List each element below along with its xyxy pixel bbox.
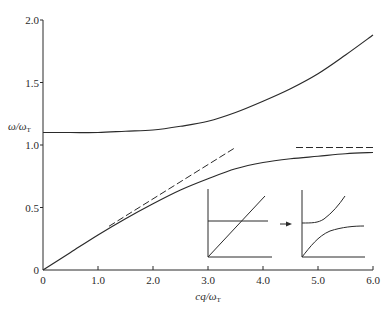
x-tick-label: 4.0: [256, 274, 270, 286]
x-axis-label-main: cq/ω: [195, 290, 216, 302]
inset-coupled-upper-branch: [302, 196, 345, 223]
x-tick-label: 1.0: [91, 274, 105, 286]
dispersion-chart: 01.02.03.04.05.06.0 00.51.01.52.0 cq/ωT …: [0, 0, 388, 310]
x-tick-label: 0: [40, 274, 46, 286]
x-tick-label: 2.0: [146, 274, 160, 286]
y-axis-label: ω/ωT: [8, 120, 32, 134]
y-axis-label-sub: T: [27, 126, 32, 134]
inset-coupled-axes: [302, 190, 365, 257]
y-axis-label-main: ω/ω: [8, 120, 27, 132]
y-tick-labels: 00.51.01.52.0: [25, 14, 39, 276]
x-tick-labels: 01.02.03.04.05.06.0: [40, 274, 380, 286]
arrow-icon: [280, 222, 292, 227]
x-axis-label: cq/ωT: [195, 290, 221, 304]
inset-coupled: [302, 190, 365, 257]
x-axis-label-sub: T: [216, 296, 221, 304]
inset-uncoupled: [208, 189, 272, 257]
y-tick-label: 0.5: [25, 202, 39, 214]
y-tick-label: 1.5: [25, 77, 39, 89]
inset-coupled-lower-branch: [302, 226, 364, 257]
y-tick-label: 1.0: [25, 139, 39, 151]
series-light-line-asymptote: [109, 148, 236, 227]
y-tick-label: 2.0: [25, 14, 39, 26]
inset-uncoupled-diagonal-line: [208, 196, 265, 257]
y-tick-label: 0: [34, 264, 40, 276]
tick-marks: [40, 20, 373, 270]
series-upper-branch: [43, 35, 373, 133]
x-tick-label: 3.0: [201, 274, 215, 286]
x-tick-label: 5.0: [311, 274, 325, 286]
x-tick-label: 6.0: [366, 274, 380, 286]
